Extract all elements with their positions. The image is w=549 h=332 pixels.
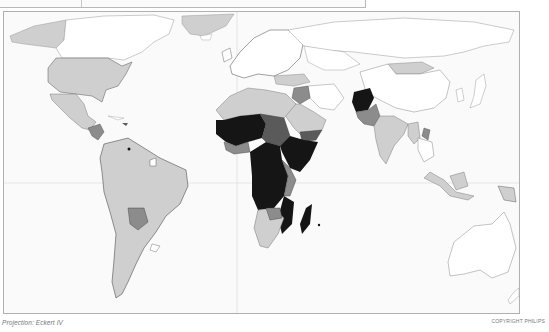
region-uruguay xyxy=(150,244,160,252)
region-uk xyxy=(222,48,232,62)
region-greenland xyxy=(182,14,234,36)
region-korea xyxy=(456,88,464,102)
region-turkey xyxy=(274,74,310,86)
header-strip xyxy=(0,0,366,8)
header-divider xyxy=(81,0,82,7)
region-haiti xyxy=(122,123,128,126)
region-australia xyxy=(448,212,516,278)
region-cuba xyxy=(108,116,124,120)
projection-caption: Projection: Eckert IV xyxy=(2,319,63,326)
region-iran xyxy=(308,84,344,110)
region-canada xyxy=(56,15,174,60)
region-mongolia xyxy=(388,62,434,74)
region-alaska xyxy=(10,20,66,48)
region-europe xyxy=(230,30,304,78)
region-mauritius-marker xyxy=(318,224,320,226)
region-venezuela-marker xyxy=(128,148,131,151)
region-madagascar xyxy=(300,204,312,234)
region-mexico xyxy=(50,94,96,130)
region-japan xyxy=(470,74,486,108)
world-map xyxy=(3,11,520,314)
region-india xyxy=(374,116,408,164)
region-laos xyxy=(422,128,430,140)
copyright-caption: COPYRIGHT PHILIPS xyxy=(491,318,545,324)
region-new-zealand xyxy=(508,288,519,304)
region-iraq xyxy=(292,86,310,104)
region-borneo xyxy=(450,172,468,190)
region-thailand-vietnam xyxy=(418,138,434,162)
region-papua-new-guinea xyxy=(498,186,516,202)
map-canvas xyxy=(4,12,519,313)
